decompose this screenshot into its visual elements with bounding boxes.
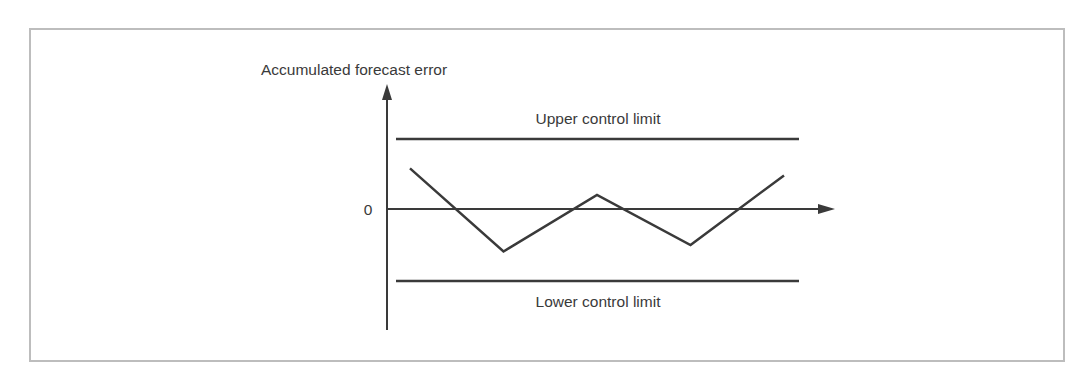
- upper-control-limit-label: Upper control limit: [536, 110, 662, 127]
- y-axis-arrow-icon: [382, 84, 392, 100]
- control-chart: Accumulated forecast error 0 Upper contr…: [0, 0, 1087, 381]
- y-axis: [382, 84, 392, 330]
- x-axis-arrow-icon: [818, 204, 835, 214]
- zero-tick-label: 0: [364, 201, 373, 218]
- y-axis-label: Accumulated forecast error: [261, 61, 447, 78]
- lower-control-limit-label: Lower control limit: [536, 293, 662, 310]
